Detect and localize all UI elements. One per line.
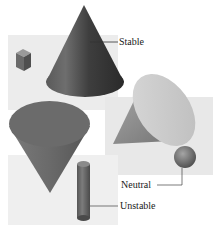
neutral-label: Neutral	[121, 180, 151, 190]
upright-cone-shape	[46, 5, 124, 97]
unstable-label: Unstable	[120, 201, 156, 211]
sphere-shape	[174, 146, 196, 168]
cylinder-shape	[77, 161, 90, 221]
shapes-illustration	[0, 0, 216, 227]
cube-shape	[16, 49, 31, 71]
stable-label: Stable	[119, 37, 144, 47]
stability-figure: Stable Neutral Unstable	[0, 0, 216, 227]
side-cone-shape	[113, 62, 208, 157]
neutral-leader-line	[157, 168, 182, 185]
